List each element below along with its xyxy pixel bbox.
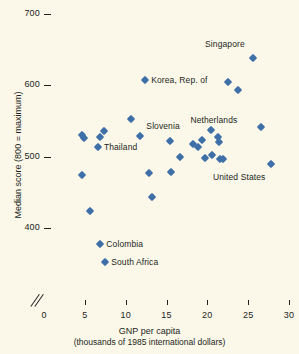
data-point-korea-rep-of xyxy=(141,76,149,84)
data-point-south-africa xyxy=(101,258,109,266)
scatter-chart: 700600500400 051015202530 SingaporeKorea… xyxy=(0,0,299,354)
data-point-slovenia xyxy=(136,132,144,140)
data-point xyxy=(193,143,201,151)
x-tick-label-5: 5 xyxy=(75,310,95,320)
x-tick-mark-20 xyxy=(207,300,208,305)
data-point xyxy=(166,137,174,145)
x-axis-title: GNP per capita (thousands of 1985 intern… xyxy=(0,326,299,348)
y-axis-title: Median score (800 = maximum) xyxy=(13,75,23,235)
x-tick-mark-25 xyxy=(248,300,249,305)
data-point xyxy=(80,134,88,142)
x-axis-title-sub: (thousands of 1985 international dollars… xyxy=(0,337,299,348)
data-point xyxy=(167,167,175,175)
data-point xyxy=(257,122,265,130)
x-tick-label-10: 10 xyxy=(116,310,136,320)
data-point xyxy=(206,126,214,134)
x-tick-label-15: 15 xyxy=(157,310,177,320)
x-axis-title-main: GNP per capita xyxy=(119,326,180,336)
data-point xyxy=(144,169,152,177)
x-tick-label-25: 25 xyxy=(238,310,258,320)
data-point xyxy=(224,78,232,86)
data-point xyxy=(234,86,242,94)
x-tick-label-20: 20 xyxy=(197,310,217,320)
data-point-colombia xyxy=(96,240,104,248)
data-point-singapore xyxy=(249,53,257,61)
x-tick-label-0: 0 xyxy=(34,310,54,320)
y-tick-mark-700 xyxy=(44,14,51,15)
slovenia-label: Slovenia xyxy=(146,121,179,131)
data-point-united-states xyxy=(267,160,275,168)
x-tick-mark-5 xyxy=(85,300,86,305)
x-tick-label-30: 30 xyxy=(279,310,299,320)
y-tick-mark-500 xyxy=(44,157,51,158)
y-tick-mark-600 xyxy=(44,85,51,86)
singapore-label: Singapore xyxy=(205,39,245,49)
x-tick-mark-15 xyxy=(167,300,168,305)
south-africa-label: South Africa xyxy=(111,257,158,267)
x-tick-mark-30 xyxy=(289,300,290,305)
data-point-thailand xyxy=(94,142,102,150)
data-point xyxy=(85,207,93,215)
korea-label: Korea, Rep. of xyxy=(151,75,207,85)
netherlands-label: Netherlands xyxy=(190,115,237,125)
data-point xyxy=(198,135,206,143)
colombia-label: Colombia xyxy=(106,239,143,249)
thailand-label: Thailand xyxy=(104,142,137,152)
data-point xyxy=(175,152,183,160)
x-tick-mark-10 xyxy=(126,300,127,305)
data-point xyxy=(148,192,156,200)
y-tick-mark-400 xyxy=(44,228,51,229)
axis-break-icon xyxy=(38,294,52,308)
data-point xyxy=(77,171,85,179)
y-tick-label-700: 700 xyxy=(14,8,40,18)
united-states-label: United States xyxy=(213,172,265,182)
data-point xyxy=(127,115,135,123)
